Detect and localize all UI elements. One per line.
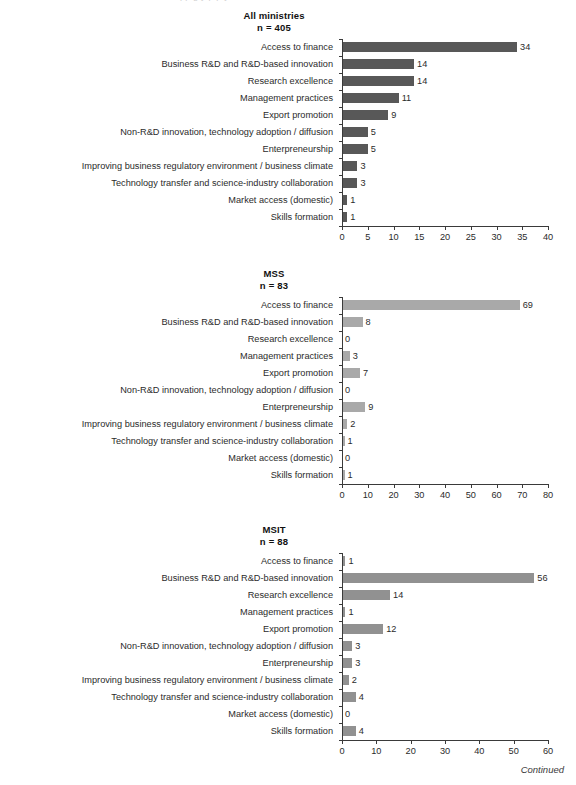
bar [342,178,357,188]
bar [342,76,414,86]
y-axis-tick [339,433,343,434]
bar [342,161,357,171]
category-label: Research excellence [0,587,338,604]
y-axis-tick [339,39,343,40]
x-tick-labels-mss: 01020304050607080 [342,490,549,504]
bar-value-label: 3 [357,175,365,192]
y-axis-tick [339,706,343,707]
x-axis-tick [411,740,412,744]
bar-row: 0 [342,331,548,348]
bar [342,93,399,103]
x-tick-label: 70 [517,490,527,500]
x-axis-all-ministries [342,226,549,227]
x-tick-label: 5 [365,232,370,242]
x-axis-mss [342,484,549,485]
bar-row: 12 [342,621,548,638]
bar-value-label: 1 [345,433,353,450]
y-axis-tick [339,621,343,622]
bar-value-label: 9 [388,107,396,124]
category-label: Research excellence [0,331,338,348]
bar-row: 34 [342,39,548,56]
category-label: Skills formation [0,209,338,226]
category-label: Market access (domestic) [0,706,338,723]
category-label: Export promotion [0,621,338,638]
x-axis-tick [497,226,498,230]
bar-value-label: 1 [345,604,353,621]
chart-sample-size: n = 405 [0,22,548,34]
y-axis-tick [339,655,343,656]
x-axis-tick [394,484,395,488]
bar-value-label: 14 [414,73,427,90]
y-axis-tick [339,56,343,57]
bar-value-label: 8 [363,314,371,331]
bar [342,692,356,702]
x-tick-label: 35 [517,232,527,242]
bar-value-label: 14 [390,587,403,604]
x-tick-label: 30 [414,490,424,500]
bar-row: 56 [342,570,548,587]
x-axis-msit [342,740,549,741]
category-label: Skills formation [0,467,338,484]
x-axis-tick [497,484,498,488]
bar-value-label: 1 [345,553,353,570]
y-axis-tick [339,192,343,193]
chart-panel-all-ministries: All ministries n = 405 Access to finance… [0,10,576,248]
bar-value-label: 14 [414,56,427,73]
x-axis-tick [479,740,480,744]
bar [342,402,365,412]
x-axis-tick [514,740,515,744]
y-axis-tick [339,209,343,210]
bar [342,726,356,736]
y-axis-tick [339,73,343,74]
category-label: Market access (domestic) [0,450,338,467]
category-label: Non-R&D innovation, technology adoption … [0,124,338,141]
bar-value-label: 11 [399,90,412,107]
bar [342,59,414,69]
bar-value-label: 3 [352,638,360,655]
bar-value-label: 0 [342,450,350,467]
chart-title-all-ministries: All ministries n = 405 [0,10,576,34]
y-axis-tick [339,314,343,315]
y-axis-tick [339,124,343,125]
x-tick-label: 50 [509,746,519,756]
bar [342,658,352,668]
x-tick-label: 10 [388,232,398,242]
bar [342,590,390,600]
category-labels-all-ministries: Access to financeBusiness R&D and R&D-ba… [0,39,338,226]
y-axis-mss [342,297,343,484]
x-tick-label: 80 [543,490,553,500]
category-label: Management practices [0,90,338,107]
bar-value-label: 3 [350,348,358,365]
x-axis-tick [342,484,343,488]
x-axis-tick [445,740,446,744]
category-label: Export promotion [0,365,338,382]
y-axis-tick [339,723,343,724]
bar-row: 9 [342,399,548,416]
category-label: Management practices [0,348,338,365]
bar-row: 5 [342,141,548,158]
bar-value-label: 2 [349,672,357,689]
x-axis-tick [394,226,395,230]
bar [342,144,368,154]
chart-panel-msit: MSIT n = 88 Access to financeBusiness R&… [0,524,576,762]
bar-group-mss: 698037092101 [342,297,548,484]
bar-row: 2 [342,416,548,433]
x-tick-label: 30 [440,746,450,756]
y-axis-tick [339,604,343,605]
y-axis-tick [339,331,343,332]
y-axis-tick [339,348,343,349]
chart-title-text: MSIT [262,524,285,535]
bar-value-label: 3 [357,158,365,175]
y-axis-msit [342,553,343,740]
bar-row: 4 [342,689,548,706]
chart-panel-mss: MSS n = 83 Access to financeBusiness R&D… [0,268,576,506]
bar-row: 0 [342,706,548,723]
x-axis-tick [548,226,549,230]
bar-value-label: 1 [347,192,355,209]
bar-value-label: 3 [352,655,360,672]
bar [342,641,352,651]
continued-note: Continued [521,764,564,775]
x-axis-tick [471,484,472,488]
chart-title-text: All ministries [243,10,304,21]
bar-value-label: 9 [365,399,373,416]
